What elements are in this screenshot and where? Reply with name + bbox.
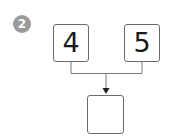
addend-right-value: 5 [133, 27, 150, 58]
arrow-down-icon [103, 88, 110, 94]
addend-left-value: 4 [62, 27, 79, 58]
answer-box[interactable] [87, 95, 124, 134]
addend-box-left: 4 [53, 24, 89, 62]
addend-box-right: 5 [124, 24, 160, 62]
